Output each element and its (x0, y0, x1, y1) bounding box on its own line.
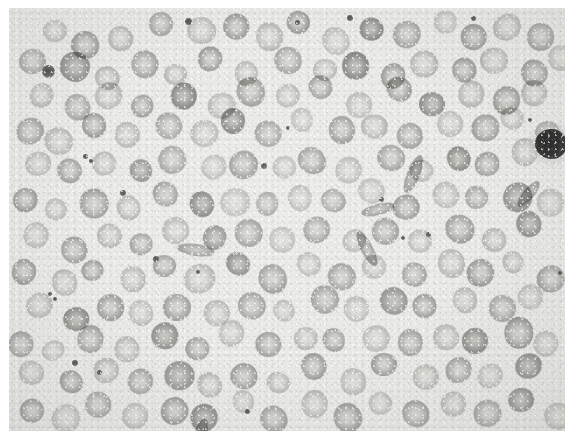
platelet (196, 270, 200, 274)
platelet (53, 297, 57, 301)
platelet (42, 65, 55, 78)
platelet (185, 18, 192, 25)
platelet (48, 292, 52, 296)
platelet (295, 20, 300, 25)
platelet (83, 154, 88, 159)
platelet (261, 163, 267, 169)
platelet (72, 360, 78, 366)
platelet (286, 126, 290, 130)
platelet (89, 159, 93, 163)
platelet-and-debris-layer (9, 8, 565, 431)
platelet (97, 370, 102, 375)
platelet (120, 190, 126, 196)
nucleated-cell (535, 129, 565, 159)
platelet (401, 236, 405, 240)
platelet (528, 118, 532, 122)
platelet (379, 197, 384, 202)
platelet (347, 15, 353, 21)
platelet (426, 232, 431, 237)
microscope-field (9, 8, 565, 431)
platelet (471, 16, 476, 21)
platelet (558, 271, 562, 275)
platelet (245, 409, 250, 414)
platelet (153, 256, 159, 262)
photomicrograph-figure (0, 0, 573, 443)
